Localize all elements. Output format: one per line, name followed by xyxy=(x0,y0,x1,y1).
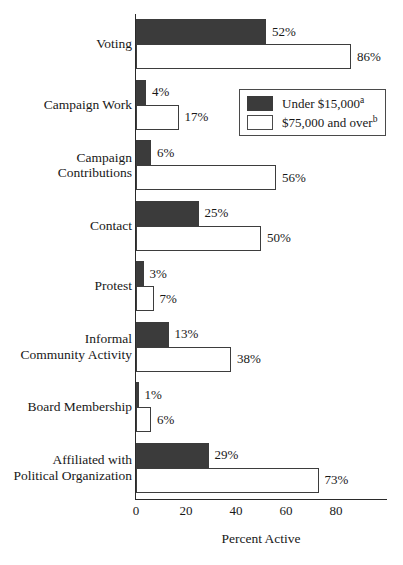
bar-over-75000 xyxy=(136,165,276,190)
legend-swatch-dark xyxy=(247,96,273,111)
category-label: Board Membership xyxy=(0,399,132,415)
bar-value-label: 73% xyxy=(325,473,349,486)
bar-over-75000 xyxy=(136,468,319,493)
bar-value-label: 86% xyxy=(357,50,381,63)
bar-group: Board Membership1%6% xyxy=(0,382,403,432)
bar-value-label: 4% xyxy=(152,85,169,98)
category-label-line: Political Organization xyxy=(0,468,132,484)
category-label-line: Community Activity xyxy=(0,347,132,363)
category-label-line: Board Membership xyxy=(0,399,132,415)
legend-label: $75,000 and overb xyxy=(282,115,377,130)
bar-under-15000 xyxy=(136,19,266,44)
legend-footnote-marker: a xyxy=(360,95,364,105)
bar-under-15000 xyxy=(136,201,199,226)
bar-value-label: 6% xyxy=(157,413,174,426)
x-axis-title: Percent Active xyxy=(135,531,387,547)
bar-value-label: 13% xyxy=(175,327,199,340)
x-tick-label: 60 xyxy=(269,504,303,518)
category-label-line: Protest xyxy=(0,278,132,294)
category-label: Affiliated withPolitical Organization xyxy=(0,452,132,483)
bar-group: Contact25%50% xyxy=(0,201,403,251)
bar-value-label: 38% xyxy=(237,352,261,365)
category-label: CampaignContributions xyxy=(0,150,132,181)
category-label: Contact xyxy=(0,218,132,234)
x-axis-line xyxy=(135,499,387,500)
bar-over-75000 xyxy=(136,286,154,311)
category-label: Voting xyxy=(0,36,132,52)
bar-over-75000 xyxy=(136,105,179,130)
x-tick-label: 80 xyxy=(319,504,353,518)
bar-under-15000 xyxy=(136,322,169,347)
category-label: Campaign Work xyxy=(0,97,132,113)
category-label-line: Informal xyxy=(0,331,132,347)
bar-under-15000 xyxy=(136,140,151,165)
x-tick-label: 0 xyxy=(119,504,153,518)
bar-group: InformalCommunity Activity13%38% xyxy=(0,322,403,372)
bar-over-75000 xyxy=(136,44,351,69)
category-label-line: Campaign xyxy=(0,150,132,166)
category-label-line: Contact xyxy=(0,218,132,234)
category-label-line: Voting xyxy=(0,36,132,52)
bar-under-15000 xyxy=(136,443,209,468)
x-tick-label: 20 xyxy=(169,504,203,518)
bar-value-label: 29% xyxy=(215,448,239,461)
bar-over-75000 xyxy=(136,407,151,432)
bar-value-label: 52% xyxy=(272,25,296,38)
legend-footnote-marker: b xyxy=(373,114,378,124)
bar-group: CampaignContributions6%56% xyxy=(0,140,403,190)
bar-value-label: 50% xyxy=(267,231,291,244)
x-tick-label: 40 xyxy=(219,504,253,518)
bar-group: Affiliated withPolitical Organization29%… xyxy=(0,443,403,493)
bar-group: Protest3%7% xyxy=(0,261,403,311)
bar-value-label: 7% xyxy=(160,292,177,305)
bar-under-15000 xyxy=(136,382,139,407)
bar-under-15000 xyxy=(136,261,144,286)
legend-label-text: Under $15,000 xyxy=(282,96,360,111)
chart-legend: Under $15,000a$75,000 and overb xyxy=(239,89,386,136)
legend-label: Under $15,000a xyxy=(282,96,364,111)
bar-value-label: 25% xyxy=(205,206,229,219)
bar-value-label: 17% xyxy=(185,110,209,123)
legend-label-text: $75,000 and over xyxy=(282,115,373,130)
bar-under-15000 xyxy=(136,80,146,105)
category-label: InformalCommunity Activity xyxy=(0,331,132,362)
bar-over-75000 xyxy=(136,226,261,251)
category-label-line: Affiliated with xyxy=(0,452,132,468)
bar-value-label: 1% xyxy=(145,388,162,401)
bar-chart: Voting52%86%Campaign Work4%17%CampaignCo… xyxy=(0,0,403,565)
bar-value-label: 3% xyxy=(150,267,167,280)
bar-over-75000 xyxy=(136,347,231,372)
category-label-line: Campaign Work xyxy=(0,97,132,113)
legend-swatch-light xyxy=(247,115,273,130)
category-label-line: Contributions xyxy=(0,165,132,181)
legend-entry: $75,000 and overb xyxy=(247,114,377,131)
category-label: Protest xyxy=(0,278,132,294)
bar-value-label: 6% xyxy=(157,146,174,159)
bar-group: Voting52%86% xyxy=(0,19,403,69)
bar-value-label: 56% xyxy=(282,171,306,184)
legend-entry: Under $15,000a xyxy=(247,95,364,112)
